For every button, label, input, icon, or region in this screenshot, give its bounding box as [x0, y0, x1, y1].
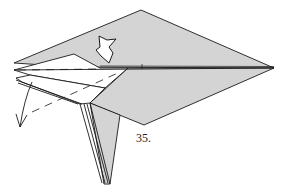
origami-diagram [0, 0, 292, 194]
fold-arrow [16, 82, 32, 127]
step-number: 35. [136, 131, 151, 146]
legs [80, 103, 120, 184]
